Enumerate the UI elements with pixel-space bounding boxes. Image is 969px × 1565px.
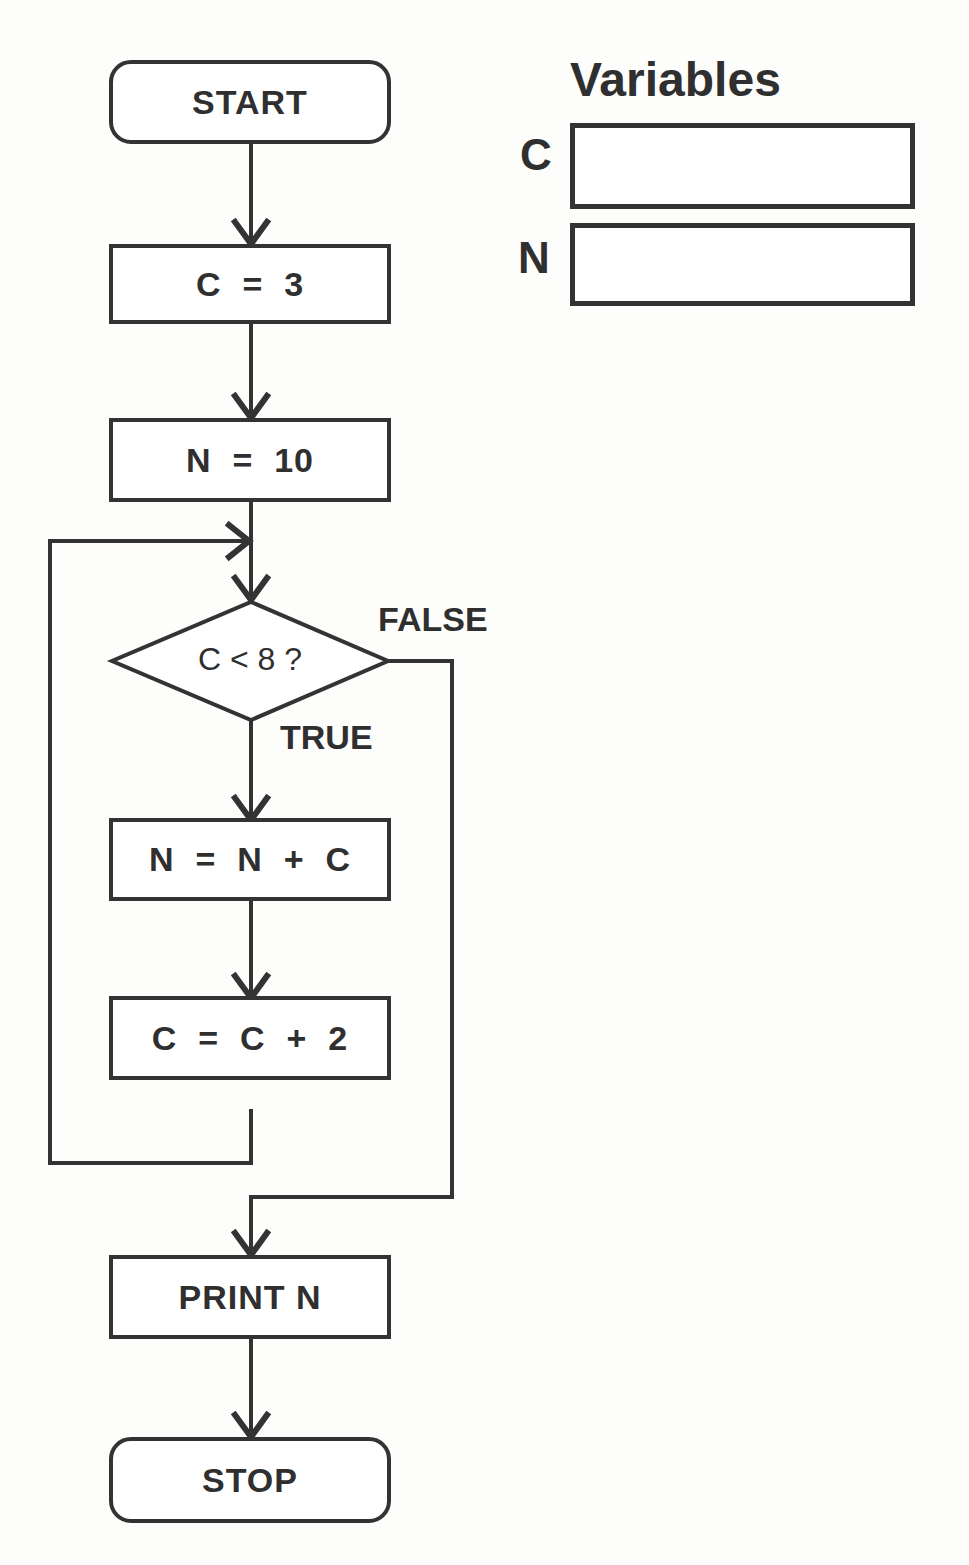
output-print-n: PRINT N (109, 1255, 391, 1339)
process-set-n: N = 10 (109, 418, 391, 502)
process-set-c-label: C = 3 (196, 265, 304, 304)
decision-condition: C < 8 ? (150, 637, 350, 681)
true-branch-label: TRUE (280, 718, 373, 757)
variable-c-name: C (520, 130, 552, 180)
variables-title: Variables (570, 52, 781, 107)
process-set-c: C = 3 (109, 244, 391, 324)
flowchart-diagram: START C = 3 N = 10 C < 8 ? FALSE TRUE N … (0, 0, 969, 1565)
start-label: START (192, 83, 308, 122)
stop-label: STOP (202, 1461, 298, 1500)
process-increment-c: C = C + 2 (109, 996, 391, 1080)
process-add-c-to-n: N = N + C (109, 818, 391, 901)
process-set-n-label: N = 10 (186, 441, 314, 480)
start-terminal: START (109, 60, 391, 144)
variable-n-value-box[interactable] (570, 223, 915, 306)
stop-terminal: STOP (109, 1437, 391, 1523)
variable-c-value-box[interactable] (570, 123, 915, 209)
output-print-n-label: PRINT N (179, 1278, 322, 1317)
process-add-c-to-n-label: N = N + C (149, 840, 351, 879)
process-increment-c-label: C = C + 2 (152, 1019, 348, 1058)
false-branch-label: FALSE (378, 600, 488, 639)
variable-n-name: N (518, 233, 550, 283)
